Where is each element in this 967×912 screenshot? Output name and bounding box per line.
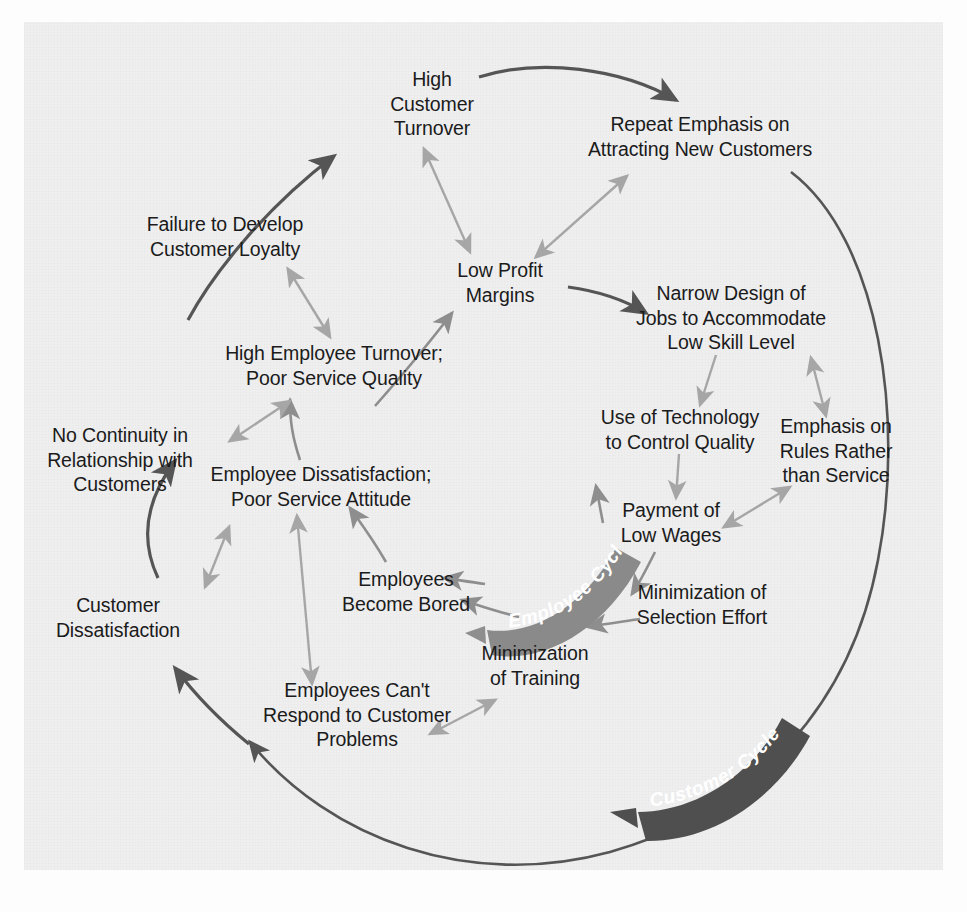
node-employees-become-bored[interactable]: Employees Become Bored xyxy=(342,567,470,616)
node-emphasis-on-rules[interactable]: Emphasis on Rules Rather than Service xyxy=(780,414,893,488)
arrow-narrow-to-technology xyxy=(700,355,716,405)
arrow-loyalty-empturnover xyxy=(288,269,330,337)
node-payment-low-wages[interactable]: Payment of Low Wages xyxy=(621,498,721,547)
node-high-customer-turnover[interactable]: High Customer Turnover xyxy=(390,67,474,141)
node-employee-dissatisfaction[interactable]: Employee Dissatisfaction; Poor Service A… xyxy=(211,462,432,511)
arrow-empdissat-custdissat xyxy=(205,527,229,587)
arrow-margins-to-narrow-design xyxy=(568,287,646,313)
arrow-turnover-margins xyxy=(424,149,470,252)
diagram-page: Employee Cycle Customer Cycle High Custo… xyxy=(0,0,967,912)
employee-cycle-label-svg: Employee Cycle xyxy=(0,0,627,631)
arrow-narrow-rules xyxy=(811,358,826,416)
node-minimization-training[interactable]: Minimization of Training xyxy=(481,641,588,690)
arrow-turnover-to-repeat xyxy=(479,67,676,100)
node-failure-develop-loyalty[interactable]: Failure to Develop Customer Loyalty xyxy=(147,212,303,261)
arrow-technology-to-lowwages xyxy=(676,454,679,498)
node-narrow-design-jobs[interactable]: Narrow Design of Jobs to Accommodate Low… xyxy=(636,281,826,355)
node-customer-dissatisfaction[interactable]: Customer Dissatisfaction xyxy=(56,593,180,642)
arrow-empdissat-cantrespond xyxy=(297,516,312,684)
node-employees-cant-respond[interactable]: Employees Can't Respond to Customer Prob… xyxy=(263,678,451,752)
node-repeat-emphasis[interactable]: Repeat Emphasis on Attracting New Custom… xyxy=(588,112,812,161)
node-minimization-selection[interactable]: Minimization of Selection Effort xyxy=(637,580,767,629)
node-low-profit-margins[interactable]: Low Profit Margins xyxy=(457,258,543,307)
arrow-nocontinuity-empturnover xyxy=(230,401,290,441)
arrow-margins-repeat xyxy=(536,176,627,257)
arrow-cantrespond-to-custdissat xyxy=(175,668,249,744)
arrow-bored-to-empdissat xyxy=(350,508,386,562)
node-high-employee-turnover[interactable]: High Employee Turnover; Poor Service Qua… xyxy=(225,341,443,390)
node-no-continuity[interactable]: No Continuity in Relationship with Custo… xyxy=(47,423,193,497)
customer-cycle-arrowhead xyxy=(610,808,638,828)
arrow-employee-cycle-up xyxy=(596,486,603,523)
arrow-lowwages-rules xyxy=(724,487,790,527)
arrow-empdissat-to-empturnover xyxy=(290,400,300,460)
node-use-of-technology[interactable]: Use of Technology to Control Quality xyxy=(601,405,759,454)
